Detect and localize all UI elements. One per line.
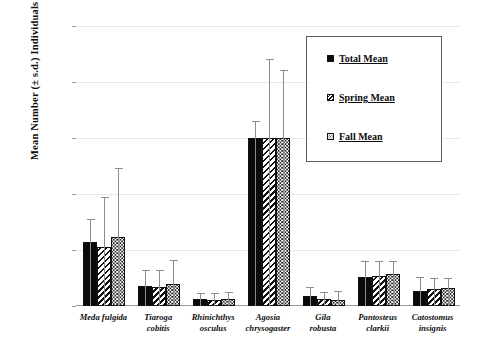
y-tick-mark [72, 306, 76, 307]
error-bar-stem [173, 261, 174, 306]
error-bar-stem [228, 293, 229, 306]
error-bar-cap [375, 261, 383, 262]
error-bar-stem [90, 220, 91, 306]
error-bar-stem [448, 279, 449, 306]
error-bar-cap [389, 261, 397, 262]
legend-label-spring-mean: Spring Mean [339, 92, 395, 103]
legend-item-spring-mean: Spring Mean [327, 92, 395, 103]
error-bar-stem [145, 271, 146, 306]
legend-swatch-spring-icon [327, 94, 334, 101]
error-bar-cap [115, 168, 123, 169]
error-bar-stem [283, 71, 284, 306]
legend-swatch-total-icon [327, 55, 334, 62]
legend-item-total-mean: Total Mean [327, 53, 388, 64]
error-bar-cap [444, 278, 452, 279]
y-axis-title: Mean Number (± s.d.) Individuals (2002-1… [29, 0, 40, 188]
error-bar-stem [200, 294, 201, 306]
error-bar-cap [320, 292, 328, 293]
error-bar-stem [269, 60, 270, 306]
y-tick-mark [72, 250, 76, 251]
y-tick-mark [72, 138, 76, 139]
error-bar-stem [365, 262, 366, 306]
error-bar-stem [310, 288, 311, 306]
error-bar-cap [334, 291, 342, 292]
y-tick-mark [72, 82, 76, 83]
error-bar-cap [170, 260, 178, 261]
error-bar-cap [252, 121, 260, 122]
x-tick-label-line: Catostomus [399, 312, 466, 323]
y-tick-mark [72, 194, 76, 195]
error-bar-stem [104, 198, 105, 306]
x-tick-label: Catostomusinsignis [399, 312, 466, 334]
error-bar-cap [280, 70, 288, 71]
bar-group [83, 26, 125, 306]
error-bar-stem [324, 293, 325, 306]
x-tick-label-line: insignis [399, 323, 466, 334]
error-bar-cap [156, 270, 164, 271]
chart-root: Mean Number (± s.d.) Individuals (2002-1… [0, 0, 487, 348]
error-bar-stem [393, 262, 394, 306]
legend-label-fall-mean: Fall Mean [339, 131, 383, 142]
error-bar-stem [379, 262, 380, 306]
error-bar-stem [159, 271, 160, 306]
bar-group [193, 26, 235, 306]
error-bar-stem [338, 292, 339, 306]
error-bar-cap [430, 278, 438, 279]
bar-group [248, 26, 290, 306]
y-tick-mark [72, 26, 76, 27]
error-bar-cap [101, 197, 109, 198]
error-bar-cap [416, 277, 424, 278]
error-bar-stem [214, 294, 215, 306]
legend-item-fall-mean: Fall Mean [327, 131, 383, 142]
error-bar-cap [306, 287, 314, 288]
error-bar-cap [197, 293, 205, 294]
error-bar-cap [225, 292, 233, 293]
error-bar-stem [255, 122, 256, 306]
bar-group [138, 26, 180, 306]
error-bar-cap [87, 219, 95, 220]
error-bar-cap [266, 59, 274, 60]
error-bar-stem [434, 279, 435, 306]
error-bar-stem [420, 278, 421, 306]
error-bar-cap [361, 261, 369, 262]
legend-label-total-mean: Total Mean [339, 53, 388, 64]
error-bar-stem [118, 169, 119, 306]
error-bar-cap [142, 270, 150, 271]
chart-legend: Total Mean Spring Mean Fall Mean [306, 36, 442, 162]
error-bar-cap [211, 293, 219, 294]
legend-swatch-fall-icon [327, 133, 334, 140]
page-margin-artifact [466, 30, 487, 62]
